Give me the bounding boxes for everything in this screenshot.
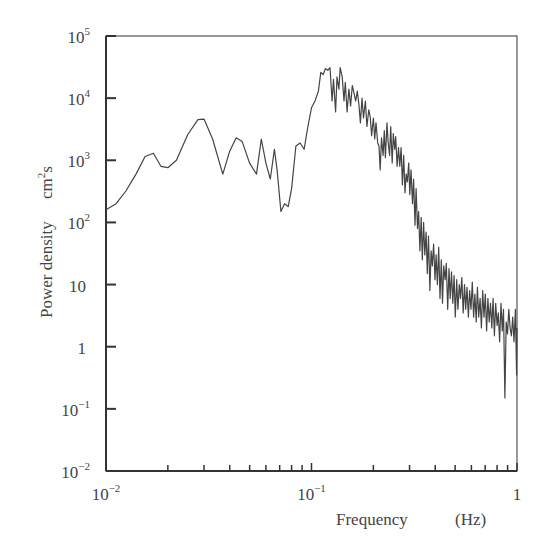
x-tick-label: 10−1 (297, 482, 326, 504)
spectrum-line (106, 68, 517, 398)
y-axis-ticks (106, 36, 116, 471)
y-tick-label: 10−1 (61, 398, 90, 420)
y-tick-label: 105 (68, 25, 91, 47)
y-tick-label: 102 (68, 211, 91, 233)
y-tick-label: 104 (68, 87, 91, 109)
x-axis-title: Frequency (336, 510, 408, 529)
y-tick-label: 10 (69, 277, 86, 296)
y-tick-label: 10−2 (61, 460, 90, 482)
x-axis-unit: (Hz) (455, 510, 486, 529)
y-tick-label: 1 (78, 339, 87, 358)
y-axis-unit-tail: s (37, 166, 56, 173)
plot-frame (106, 36, 517, 471)
y-tick-label: 103 (68, 149, 91, 171)
x-tick-label: 1 (513, 485, 522, 504)
y-axis-title: Power density cm2s (35, 166, 56, 318)
x-axis-tick-labels: 10−210−11 (92, 482, 522, 504)
y-axis-title-text: Power density (37, 221, 56, 318)
x-axis-ticks (168, 463, 517, 471)
x-tick-label: 10−2 (92, 482, 121, 504)
y-axis-tick-labels: 10510410310210110−110−2 (61, 25, 90, 482)
power-spectrum-chart: 10510410310210110−110−2 10−210−11 Freque… (0, 0, 545, 557)
y-axis-unit: cm (37, 178, 56, 199)
